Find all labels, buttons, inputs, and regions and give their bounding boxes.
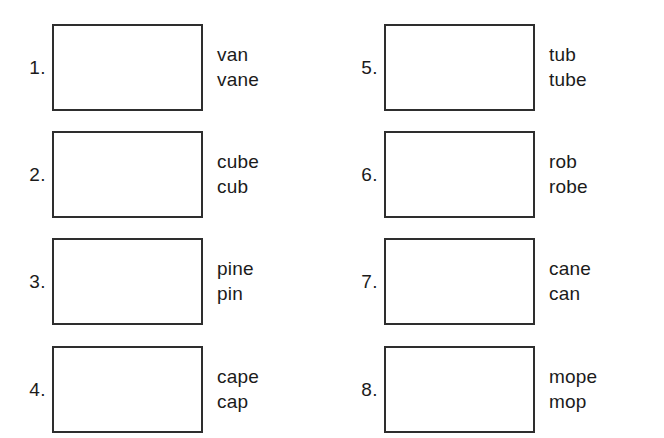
item-number: 1. bbox=[0, 58, 52, 77]
drawing-box[interactable] bbox=[384, 238, 535, 325]
worksheet-column-right: 5. tub tube 6. rob robe 7. cane can 8. bbox=[332, 0, 664, 438]
word-option-top[interactable]: tub bbox=[549, 43, 664, 67]
drawing-box[interactable] bbox=[52, 24, 203, 111]
worksheet-item: 4. cape cap bbox=[0, 336, 332, 438]
word-option-top[interactable]: van bbox=[217, 43, 332, 67]
word-option-bottom[interactable]: tube bbox=[549, 68, 664, 92]
word-option-top[interactable]: cane bbox=[549, 257, 664, 281]
item-number: 8. bbox=[332, 380, 384, 399]
drawing-box[interactable] bbox=[384, 24, 535, 111]
worksheet-column-left: 1. van vane 2. cube cub 3. pine pin 4. bbox=[0, 0, 332, 438]
drawing-box[interactable] bbox=[52, 131, 203, 218]
worksheet-item: 6. rob robe bbox=[332, 121, 664, 228]
word-option-bottom[interactable]: cap bbox=[217, 390, 332, 414]
word-pair: cape cap bbox=[203, 365, 332, 414]
drawing-box[interactable] bbox=[384, 131, 535, 218]
item-number: 3. bbox=[0, 272, 52, 291]
word-option-top[interactable]: pine bbox=[217, 257, 332, 281]
word-option-top[interactable]: cube bbox=[217, 150, 332, 174]
drawing-box[interactable] bbox=[52, 346, 203, 433]
worksheet-item: 8. mope mop bbox=[332, 336, 664, 438]
word-pair: cube cub bbox=[203, 150, 332, 199]
worksheet-item: 1. van vane bbox=[0, 14, 332, 121]
word-pair: van vane bbox=[203, 43, 332, 92]
word-pair: cane can bbox=[535, 257, 664, 306]
worksheet-page: 1. van vane 2. cube cub 3. pine pin 4. bbox=[0, 0, 664, 438]
item-number: 2. bbox=[0, 165, 52, 184]
word-option-bottom[interactable]: pin bbox=[217, 282, 332, 306]
worksheet-item: 5. tub tube bbox=[332, 14, 664, 121]
word-option-top[interactable]: rob bbox=[549, 150, 664, 174]
item-number: 4. bbox=[0, 380, 52, 399]
word-pair: pine pin bbox=[203, 257, 332, 306]
word-pair: rob robe bbox=[535, 150, 664, 199]
drawing-box[interactable] bbox=[52, 238, 203, 325]
word-option-bottom[interactable]: robe bbox=[549, 175, 664, 199]
item-number: 6. bbox=[332, 165, 384, 184]
word-pair: mope mop bbox=[535, 365, 664, 414]
drawing-box[interactable] bbox=[384, 346, 535, 433]
word-option-top[interactable]: mope bbox=[549, 365, 664, 389]
worksheet-item: 7. cane can bbox=[332, 228, 664, 335]
worksheet-item: 2. cube cub bbox=[0, 121, 332, 228]
word-option-bottom[interactable]: mop bbox=[549, 390, 664, 414]
item-number: 5. bbox=[332, 58, 384, 77]
item-number: 7. bbox=[332, 272, 384, 291]
worksheet-item: 3. pine pin bbox=[0, 228, 332, 335]
word-option-bottom[interactable]: cub bbox=[217, 175, 332, 199]
word-option-bottom[interactable]: vane bbox=[217, 68, 332, 92]
word-option-bottom[interactable]: can bbox=[549, 282, 664, 306]
word-option-top[interactable]: cape bbox=[217, 365, 332, 389]
word-pair: tub tube bbox=[535, 43, 664, 92]
